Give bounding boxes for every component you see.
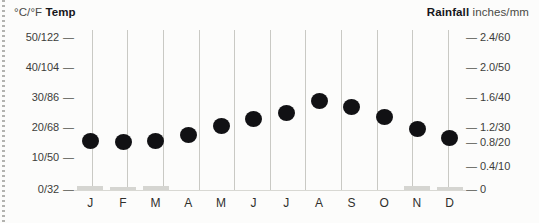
left-axis-tick: 30/86— [32, 92, 74, 103]
month-label: A [307, 196, 331, 210]
column-gridline [305, 30, 306, 190]
month-label: A [176, 196, 200, 210]
month-label: M [144, 196, 168, 210]
right-axis-tick-label: 1.2/30 [480, 121, 510, 133]
column-gridline [448, 30, 449, 190]
left-axis: 50/122—40/104—30/86—20/68—10/50—0/32— [2, 0, 74, 223]
month-label: N [405, 196, 429, 210]
right-axis-tick: —1.2/30 [466, 122, 510, 133]
temperature-dot [147, 133, 164, 149]
right-axis-tick: —0 [466, 184, 486, 195]
right-axis: —2.4/60—2.0/50—1.6/40—1.2/30—0.8/20—0.4/… [466, 0, 539, 223]
month-label: D [438, 196, 462, 210]
temperature-dot [311, 93, 328, 109]
plot-area [74, 30, 466, 190]
column-gridline [199, 30, 200, 190]
right-axis-tick-label: 1.6/40 [480, 91, 510, 103]
left-axis-tick-dash-icon: — [63, 91, 74, 103]
left-axis-tick-dash-icon: — [63, 121, 74, 133]
month-label: O [372, 196, 396, 210]
right-axis-tick-dash-icon: — [466, 61, 477, 73]
left-axis-tick: 10/50— [32, 152, 74, 163]
left-axis-tick-label: 10/50 [32, 151, 59, 163]
month-label: J [274, 196, 298, 210]
right-axis-tick-dash-icon: — [466, 136, 477, 148]
right-axis-tick-dash-icon: — [466, 160, 477, 172]
right-axis-tick: —2.4/60 [466, 32, 510, 43]
month-label: F [111, 196, 135, 210]
month-axis-labels: JFMAMJJASOND [74, 196, 466, 218]
right-axis-title: Rainfall [427, 6, 469, 18]
column-gridline [270, 30, 271, 190]
temperature-dot [180, 127, 197, 143]
left-axis-tick: 50/122— [26, 32, 74, 43]
left-axis-tick-label: 40/104 [26, 61, 59, 73]
temperature-dot [376, 109, 393, 125]
left-axis-tick-dash-icon: — [63, 151, 74, 163]
temperature-dot [409, 121, 426, 137]
right-axis-tick-dash-icon: — [466, 121, 477, 133]
temperature-dot [278, 105, 295, 121]
month-label: S [340, 196, 364, 210]
left-axis-tick: 40/104— [26, 62, 74, 73]
right-axis-tick-label: 2.4/60 [480, 31, 510, 43]
right-axis-tick: —2.0/50 [466, 62, 510, 73]
right-axis-tick-label: 2.0/50 [480, 61, 510, 73]
column-gridline [341, 30, 342, 190]
temperature-dot [82, 133, 99, 149]
right-axis-tick: —0.8/20 [466, 137, 510, 148]
temperature-dot [441, 130, 458, 146]
right-axis-tick-dash-icon: — [466, 91, 477, 103]
left-axis-tick-dash-icon: — [63, 61, 74, 73]
right-axis-tick-label: 0.8/20 [480, 136, 510, 148]
temperature-dot [343, 99, 360, 115]
column-gridline [412, 30, 413, 190]
climate-chart: °C/°F Temp Rainfall inches/mm 50/122—40/… [0, 0, 539, 223]
column-gridline [377, 30, 378, 190]
left-axis-tick: 20/68— [32, 122, 74, 133]
right-axis-tick-label: 0.4/10 [480, 160, 510, 172]
right-axis-tick-label: 0 [480, 183, 486, 195]
temperature-dot [245, 111, 262, 127]
left-axis-tick-label: 50/122 [26, 31, 59, 43]
temperature-dot [213, 118, 230, 134]
month-label: M [209, 196, 233, 210]
right-axis-tick: —1.6/40 [466, 92, 510, 103]
column-gridline [163, 30, 164, 190]
left-axis-tick-label: 30/86 [32, 91, 59, 103]
left-axis-tick-dash-icon: — [63, 31, 74, 43]
month-label: J [78, 196, 102, 210]
right-axis-tick-dash-icon: — [466, 31, 477, 43]
left-axis-tick: 0/32— [38, 184, 74, 195]
left-axis-tick-dash-icon: — [63, 183, 74, 195]
column-gridline [127, 30, 128, 190]
right-axis-tick: —0.4/10 [466, 161, 510, 172]
left-axis-tick-label: 0/32 [38, 183, 59, 195]
baseline-axis [74, 190, 466, 191]
month-label: J [242, 196, 266, 210]
right-axis-tick-dash-icon: — [466, 183, 477, 195]
column-gridline [92, 30, 93, 190]
column-gridline [234, 30, 235, 190]
temperature-dot [115, 134, 132, 150]
left-axis-tick-label: 20/68 [32, 121, 59, 133]
